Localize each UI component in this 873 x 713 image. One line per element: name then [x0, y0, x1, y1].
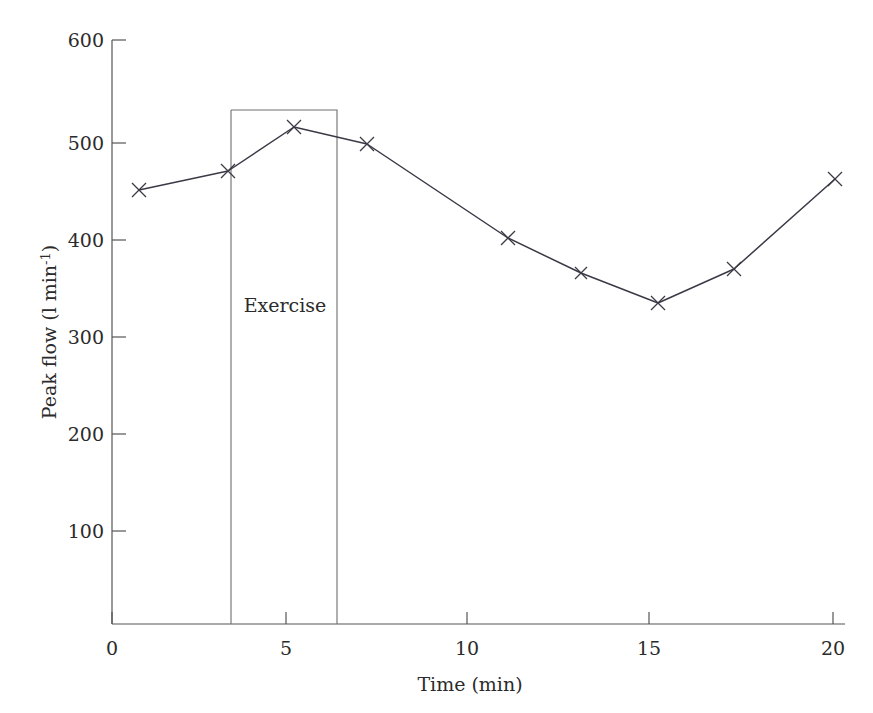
y-tick-label-500: 500	[68, 132, 104, 154]
y-axis-title-exponent: -1	[38, 252, 53, 265]
x-tick-marks	[112, 612, 833, 624]
y-axis-title-close: )	[38, 245, 60, 252]
exercise-label: Exercise	[244, 294, 327, 316]
peak-flow-line-chart: 600 500 400 300 200 100 0 5 10 15 20 Tim…	[0, 0, 873, 713]
x-tick-label-5: 5	[280, 637, 292, 659]
chart-container: 600 500 400 300 200 100 0 5 10 15 20 Tim…	[0, 0, 873, 713]
y-tick-marks	[112, 40, 126, 531]
y-tick-label-600: 600	[68, 29, 104, 51]
data-point-marker	[287, 120, 301, 134]
axis-group	[112, 40, 845, 624]
data-point-marker	[651, 296, 665, 310]
y-tick-label-400: 400	[68, 229, 104, 251]
y-tick-label-100: 100	[68, 520, 104, 542]
data-point-marker	[221, 164, 235, 178]
exercise-annotation: Exercise	[231, 110, 337, 624]
series-markers	[132, 120, 842, 310]
x-tick-labels: 0 5 10 15 20	[106, 637, 845, 659]
exercise-box	[231, 110, 337, 624]
x-tick-label-10: 10	[455, 637, 479, 659]
series-peak-flow	[132, 120, 842, 310]
data-point-marker	[828, 172, 842, 186]
x-tick-label-20: 20	[821, 637, 845, 659]
y-axis-title-main: Peak flow (l min	[38, 265, 60, 419]
y-tick-labels: 600 500 400 300 200 100	[68, 29, 104, 542]
x-axis-title: Time (min)	[417, 673, 522, 695]
y-tick-label-300: 300	[68, 326, 104, 348]
data-point-marker	[727, 262, 741, 276]
y-axis-title: Peak flow (l min-1)	[38, 245, 60, 419]
x-tick-label-0: 0	[106, 637, 118, 659]
data-point-marker	[575, 267, 587, 279]
series-line-peak-flow	[139, 127, 835, 303]
x-tick-label-15: 15	[637, 637, 661, 659]
data-point-marker	[501, 231, 515, 245]
y-tick-label-200: 200	[68, 423, 104, 445]
data-point-marker	[132, 183, 146, 197]
data-point-marker	[360, 137, 374, 151]
